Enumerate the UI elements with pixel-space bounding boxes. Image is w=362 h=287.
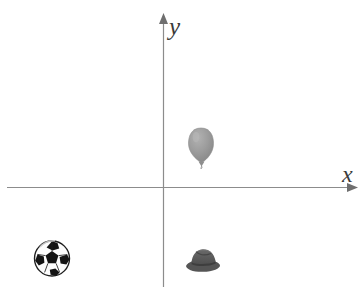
diagram-canvas: y x [0,0,362,287]
balloon-icon [189,128,214,169]
x-axis-label: x [342,162,353,186]
y-axis-label: y [169,14,180,39]
y-axis-arrowhead [159,13,168,24]
fedora-hat-icon [186,249,220,272]
soccer-ball-icon [35,241,70,276]
coordinate-axes [0,0,362,287]
